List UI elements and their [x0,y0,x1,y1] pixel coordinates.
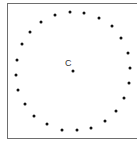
point-dot [33,115,36,118]
point-dot [129,67,132,70]
points-circle [0,0,137,148]
point-dot [69,11,72,14]
point-dot [61,129,64,132]
point-dot [15,74,18,77]
point-dot [128,82,131,85]
point-dot [29,31,32,34]
point-dot [104,120,107,123]
point-dot [123,97,126,100]
point-dot [98,17,101,20]
point-dot [54,14,57,17]
center-label: C [65,59,72,68]
point-dot [127,52,130,55]
point-dot [24,103,27,106]
point-dot [46,123,49,126]
point-dot [16,59,19,62]
center-dot [72,70,75,73]
point-dot [111,25,114,28]
point-dot [115,110,118,113]
point-dot [40,21,43,24]
point-dot [120,37,123,40]
point-dot [83,12,86,15]
point-dot [17,89,20,92]
point-dot [76,129,79,132]
point-dot [21,43,24,46]
point-dot [90,127,93,130]
